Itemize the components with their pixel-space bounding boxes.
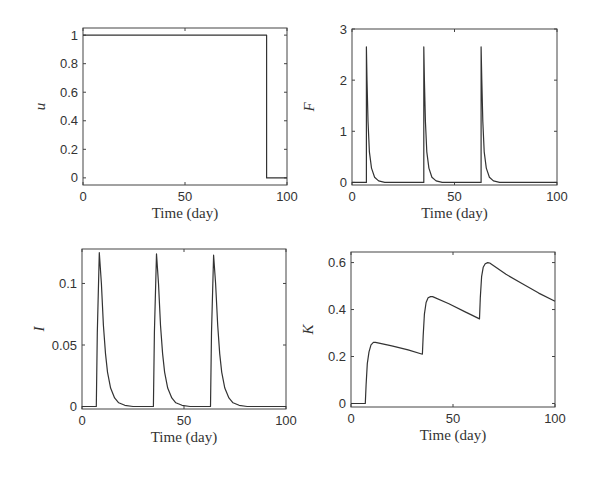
y-axis-F: 0123	[340, 22, 557, 190]
y-tick-label: 0	[71, 170, 78, 185]
y-axis-label-F: F	[301, 102, 317, 113]
subplot-u: 00.20.40.60.81 050100 Time (day) u	[32, 28, 298, 222]
subplot-F: 0123 050100 Time (day) F	[301, 22, 568, 223]
y-axis-K: 00.20.40.6	[328, 255, 555, 411]
y-tick-label: 0.4	[328, 302, 346, 317]
x-axis-label-F: Time (day)	[421, 205, 488, 222]
curve-F	[352, 47, 557, 183]
x-tick-label: 0	[348, 189, 355, 204]
y-tick-label: 0.2	[328, 349, 346, 364]
plot-frame-F	[352, 29, 557, 185]
x-tick-label: 100	[276, 189, 298, 204]
x-tick-label: 100	[544, 411, 566, 426]
x-tick-label: 50	[446, 411, 460, 426]
x-axis-label-u: Time (day)	[152, 205, 219, 222]
plot-frame-u	[83, 28, 287, 185]
y-tick-label: 0.6	[328, 255, 346, 270]
x-tick-label: 50	[447, 189, 461, 204]
y-tick-label: 2	[340, 73, 347, 88]
y-tick-label: 0.4	[60, 113, 78, 128]
y-tick-label: 1	[340, 124, 347, 139]
y-tick-label: 3	[340, 22, 347, 37]
plot-frame-I	[82, 249, 286, 409]
x-axis-F: 050100	[348, 29, 567, 204]
x-tick-label: 100	[275, 413, 297, 428]
y-tick-label: 1	[71, 28, 78, 43]
x-tick-label: 0	[347, 411, 354, 426]
x-axis-label-I: Time (day)	[151, 429, 218, 446]
y-tick-label: 0.1	[59, 276, 77, 291]
y-tick-label: 0	[339, 396, 346, 411]
x-axis-K: 050100	[347, 252, 565, 426]
curve-K	[351, 263, 555, 404]
y-tick-label: 0.6	[60, 85, 78, 100]
curve-u	[83, 35, 287, 178]
y-axis-label-K: K	[300, 324, 316, 336]
plot-frame-K	[351, 252, 555, 407]
x-tick-label: 100	[546, 189, 568, 204]
y-axis-label-u: u	[32, 103, 48, 111]
y-tick-label: 0.2	[60, 142, 78, 157]
y-tick-label: 0	[70, 399, 77, 414]
x-tick-label: 50	[177, 413, 191, 428]
x-tick-label: 0	[78, 413, 85, 428]
y-tick-label: 0.05	[52, 338, 77, 353]
subplot-I: 00.050.1 050100 Time (day) I	[31, 249, 297, 446]
y-axis-I: 00.050.1	[52, 276, 286, 414]
x-tick-label: 50	[178, 189, 192, 204]
x-axis-I: 050100	[78, 249, 296, 428]
x-axis-u: 050100	[79, 28, 297, 204]
y-tick-label: 0	[340, 175, 347, 190]
x-axis-label-K: Time (day)	[420, 427, 487, 444]
y-axis-u: 00.20.40.60.81	[60, 28, 287, 186]
curve-I	[82, 253, 286, 407]
subplot-K: 00.20.40.6 050100 Time (day) K	[300, 252, 566, 444]
x-tick-label: 0	[79, 189, 86, 204]
y-tick-label: 0.8	[60, 56, 78, 71]
y-axis-label-I: I	[31, 326, 47, 333]
figure: 00.20.40.60.81 050100 Time (day) u 0123 …	[0, 0, 589, 477]
